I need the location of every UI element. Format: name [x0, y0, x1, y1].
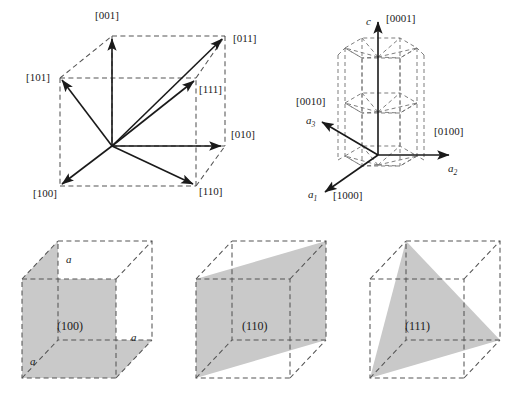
arrow-100	[62, 146, 112, 184]
label-axis-a2: a2	[448, 163, 457, 177]
arrow-111	[112, 81, 194, 146]
cubic-direction-arrows	[62, 39, 222, 184]
label-edge-a-right: a	[131, 332, 137, 343]
label-direction-0100: [0100]	[434, 126, 463, 137]
crystallography-figure: [001] [011] [101] [111] [010] [100] [110…	[0, 0, 523, 404]
label-axis-a1: a1	[308, 189, 317, 203]
figure-canvas	[0, 0, 523, 404]
arrow-a1-1000	[325, 155, 378, 192]
label-direction-0001: [0001]	[386, 13, 415, 24]
label-direction-011: [011]	[233, 33, 256, 44]
plane-111-group	[370, 241, 500, 378]
label-direction-100: [100]	[33, 188, 57, 199]
label-axis-c: c	[366, 16, 371, 27]
label-direction-1000: [1000]	[333, 190, 362, 201]
label-direction-101: [101]	[26, 72, 50, 83]
label-edge-a-top: a	[66, 254, 72, 265]
label-plane-110: (110)	[242, 320, 268, 332]
label-direction-0010: [0010]	[296, 96, 325, 107]
label-direction-001: [001]	[95, 10, 119, 21]
arrow-110	[112, 146, 193, 184]
hexagonal-axis-arrows	[322, 22, 449, 192]
arrow-101	[62, 80, 112, 146]
label-direction-110: [110]	[199, 186, 222, 197]
label-direction-010: [010]	[231, 129, 255, 140]
label-direction-111: [111]	[199, 84, 222, 95]
label-axis-a3: a3	[306, 115, 315, 129]
label-plane-111: (111)	[405, 320, 430, 332]
hexagonal-prism-edges	[338, 38, 424, 166]
arrow-a3-0010	[322, 122, 378, 155]
plane-100-group	[22, 241, 152, 378]
plane-110-group	[196, 241, 326, 378]
label-edge-a-front: a	[30, 356, 36, 367]
label-plane-100: (100)	[57, 320, 83, 332]
